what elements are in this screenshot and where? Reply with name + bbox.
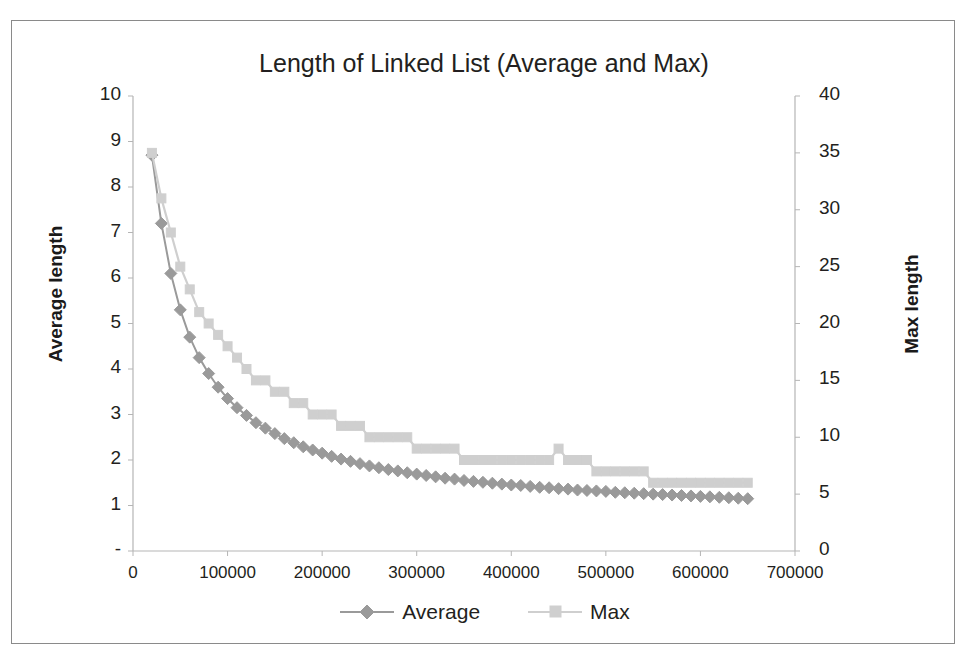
y-right-tick-40: 40 xyxy=(819,83,867,105)
data-point-marker xyxy=(318,410,327,419)
data-point-marker xyxy=(242,365,251,374)
data-point-marker xyxy=(573,456,582,465)
series-line xyxy=(152,153,748,483)
data-point-marker xyxy=(223,342,232,351)
data-point-marker xyxy=(677,478,686,487)
data-point-marker xyxy=(392,465,404,477)
data-point-marker xyxy=(157,194,166,203)
y-right-tick-35: 35 xyxy=(819,140,867,162)
data-point-marker xyxy=(658,478,667,487)
data-point-marker xyxy=(384,433,393,442)
data-point-marker xyxy=(554,444,563,453)
y-right-tick-20: 20 xyxy=(819,311,867,333)
legend-item-max: Max xyxy=(526,601,630,622)
data-point-marker xyxy=(422,444,431,453)
data-point-marker xyxy=(373,462,385,474)
data-point-marker xyxy=(649,478,658,487)
chart-page: Length of Linked List (Average and Max) … xyxy=(0,0,969,654)
x-tick-0: 0 xyxy=(78,563,188,583)
diamond-marker-icon xyxy=(338,602,396,622)
data-point-marker xyxy=(335,453,347,465)
data-point-marker xyxy=(403,433,412,442)
x-tick-500000: 500000 xyxy=(551,563,661,583)
y-right-tick-30: 30 xyxy=(819,197,867,219)
series-max xyxy=(147,148,752,487)
data-point-marker xyxy=(705,478,714,487)
data-point-marker xyxy=(184,331,196,343)
y-left-tick-5: 5 xyxy=(81,311,121,333)
data-point-marker xyxy=(601,467,610,476)
data-point-marker xyxy=(743,478,752,487)
data-point-marker xyxy=(431,444,440,453)
data-point-marker xyxy=(365,433,374,442)
y-left-tick-7: 7 xyxy=(81,220,121,242)
y-right-tick-0: 0 xyxy=(819,538,867,560)
data-point-marker xyxy=(308,410,317,419)
y-left-tick-1: 1 xyxy=(81,493,121,515)
data-point-marker xyxy=(497,456,506,465)
data-point-marker xyxy=(639,467,648,476)
data-point-marker xyxy=(147,148,156,157)
x-tick-400000: 400000 xyxy=(456,563,566,583)
x-tick-300000: 300000 xyxy=(362,563,472,583)
data-point-marker xyxy=(337,421,346,430)
data-point-marker xyxy=(374,433,383,442)
data-point-marker xyxy=(620,467,629,476)
chart-title: Length of Linked List (Average and Max) xyxy=(12,49,956,78)
y-left-tick--: - xyxy=(81,538,121,560)
x-tick-100000: 100000 xyxy=(173,563,283,583)
data-point-marker xyxy=(233,353,242,362)
y-right-tick-5: 5 xyxy=(819,481,867,503)
data-point-marker xyxy=(355,421,364,430)
data-point-marker xyxy=(346,421,355,430)
y-right-tick-25: 25 xyxy=(819,254,867,276)
data-point-marker xyxy=(280,387,289,396)
y-left-tick-9: 9 xyxy=(81,129,121,151)
legend-label: Average xyxy=(402,601,480,622)
data-point-marker xyxy=(214,330,223,339)
data-point-marker xyxy=(204,319,213,328)
data-point-marker xyxy=(516,456,525,465)
data-point-marker xyxy=(327,410,336,419)
data-point-marker xyxy=(545,456,554,465)
data-point-marker xyxy=(345,455,357,467)
data-point-marker xyxy=(166,228,175,237)
data-point-marker xyxy=(469,456,478,465)
data-point-marker xyxy=(686,478,695,487)
data-point-marker xyxy=(450,444,459,453)
data-point-marker xyxy=(441,444,450,453)
y-left-tick-6: 6 xyxy=(81,265,121,287)
data-point-marker xyxy=(460,456,469,465)
y-left-tick-3: 3 xyxy=(81,402,121,424)
chart-legend: AverageMax xyxy=(12,601,956,622)
data-point-marker xyxy=(564,456,573,465)
x-tick-600000: 600000 xyxy=(645,563,755,583)
data-point-marker xyxy=(734,478,743,487)
data-point-marker xyxy=(174,304,186,316)
square-marker-icon xyxy=(526,602,584,622)
data-point-marker xyxy=(176,262,185,271)
data-point-marker xyxy=(478,456,487,465)
data-point-marker xyxy=(507,456,516,465)
data-point-marker xyxy=(270,387,279,396)
legend-label: Max xyxy=(590,601,630,622)
y-axis-left-title: Average length xyxy=(45,214,67,374)
data-point-marker xyxy=(165,267,177,279)
data-point-marker xyxy=(715,478,724,487)
data-point-marker xyxy=(412,444,421,453)
data-point-marker xyxy=(696,478,705,487)
y-left-tick-4: 4 xyxy=(81,356,121,378)
y-left-tick-8: 8 xyxy=(81,174,121,196)
data-point-marker xyxy=(742,493,754,505)
chart-frame: Length of Linked List (Average and Max) … xyxy=(11,20,955,644)
data-point-marker xyxy=(289,399,298,408)
data-point-marker xyxy=(535,456,544,465)
legend-item-average: Average xyxy=(338,601,480,622)
data-point-marker xyxy=(251,376,260,385)
y-left-tick-2: 2 xyxy=(81,447,121,469)
plot-svg xyxy=(133,96,795,551)
y-axis-right-title: Max length xyxy=(901,234,923,374)
data-point-marker xyxy=(195,308,204,317)
data-point-marker xyxy=(155,217,167,229)
data-point-marker xyxy=(611,467,620,476)
